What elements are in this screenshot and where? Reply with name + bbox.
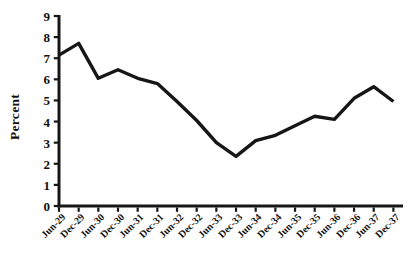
y-tick-label: 4 [28, 116, 50, 129]
y-tick-label: 9 [28, 10, 50, 23]
y-tick-label: 7 [28, 52, 50, 65]
y-tick-label: 5 [28, 94, 50, 107]
y-tick-label: 2 [28, 158, 50, 171]
y-tick-label: 0 [28, 200, 50, 213]
y-tick-label: 6 [28, 73, 50, 86]
y-tick-label: 1 [28, 179, 50, 192]
data-line [59, 43, 393, 156]
y-tick-label: 8 [28, 31, 50, 44]
chart-figure: Percent 0123456789 Jun-29Dec-29Jun-30Dec… [0, 0, 416, 261]
y-tick-label: 3 [28, 137, 50, 150]
